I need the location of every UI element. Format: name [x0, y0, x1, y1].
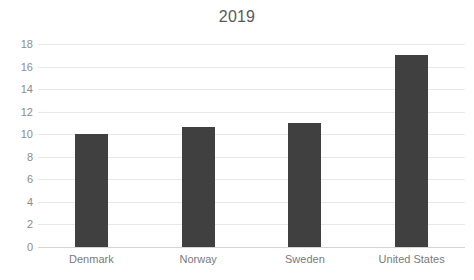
bar: [75, 134, 108, 247]
bar: [182, 127, 215, 247]
y-tick-label: 18: [3, 39, 33, 50]
y-tick-label: 10: [3, 129, 33, 140]
y-axis-tick-labels: 181614121086420: [0, 44, 33, 247]
y-tick-label: 12: [3, 106, 33, 117]
bar: [288, 123, 321, 247]
y-tick-label: 8: [3, 151, 33, 162]
y-tick-label: 4: [3, 196, 33, 207]
gridline: [38, 44, 465, 45]
bar: [395, 55, 428, 247]
y-tick-label: 0: [3, 242, 33, 253]
plot-area: [38, 44, 465, 247]
category-label: Norway: [179, 253, 216, 266]
category-label: Denmark: [69, 253, 114, 266]
category-label: United States: [379, 253, 445, 266]
y-tick-label: 6: [3, 174, 33, 185]
chart-title: 2019: [0, 8, 474, 26]
y-tick-label: 2: [3, 219, 33, 230]
gridline: [38, 247, 465, 248]
category-label: Sweden: [285, 253, 325, 266]
y-tick-label: 14: [3, 84, 33, 95]
y-tick-label: 16: [3, 61, 33, 72]
bar-chart: 2019 181614121086420 DenmarkNorwaySweden…: [0, 0, 474, 280]
